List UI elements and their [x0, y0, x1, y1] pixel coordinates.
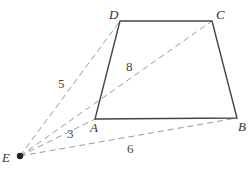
point-E — [17, 153, 23, 159]
length-ED: 5 — [58, 76, 65, 91]
label-C: C — [216, 7, 225, 22]
label-E: E — [1, 150, 10, 165]
segment-EC — [20, 21, 212, 156]
label-B: B — [238, 119, 246, 134]
trapezoid-diagram: D C A B E 5 8 3 6 — [0, 0, 252, 172]
label-A: A — [89, 120, 98, 135]
length-EB: 6 — [127, 141, 134, 156]
length-EC: 8 — [126, 59, 133, 74]
length-EA: 3 — [67, 126, 74, 141]
label-D: D — [108, 7, 119, 22]
trapezoid-ABCD — [95, 21, 237, 119]
segment-EA — [20, 119, 95, 156]
